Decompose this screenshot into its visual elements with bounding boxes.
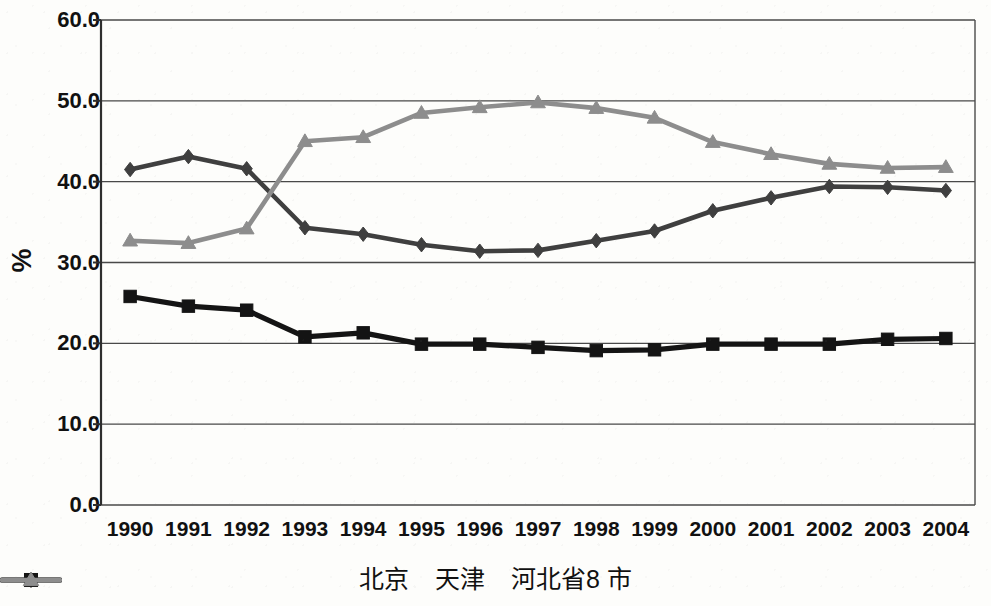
data-point-marker [765,191,776,205]
data-point-marker [881,333,893,345]
legend-item-label: 北京 [359,567,409,592]
data-point-marker [358,227,369,241]
data-point-marker [940,183,951,197]
legend-item-label: 河北省8 市 [511,567,632,592]
data-point-marker [415,338,427,350]
data-point-marker [124,290,136,302]
data-point-marker [183,149,194,163]
data-point-marker [940,332,952,344]
series-2 [124,290,952,357]
chart-legend: 北京天津河北省8 市 [0,567,991,592]
data-point-marker [590,344,602,356]
legend-marker-triangle-icon [0,567,62,593]
data-point-marker [474,338,486,350]
data-point-marker [648,344,660,356]
data-point-marker [240,304,252,316]
data-point-marker [532,243,543,257]
line-chart: % 60.050.040.030.020.010.00.0 1990199119… [0,0,991,606]
legend-item[interactable]: 北京 [359,567,409,592]
data-point-marker [707,338,719,350]
data-point-marker [125,162,136,176]
data-point-marker [357,327,369,339]
data-point-marker [591,233,602,247]
data-point-marker [765,338,777,350]
data-point-marker [416,238,427,252]
legend-item[interactable]: 河北省8 市 [511,567,632,592]
data-point-marker [707,204,718,218]
data-point-marker [182,300,194,312]
data-point-marker [299,331,311,343]
series-line [130,157,946,252]
legend-item[interactable]: 天津 [435,567,485,592]
data-point-marker [823,338,835,350]
plot-area [0,0,991,606]
data-point-marker [532,341,544,353]
data-point-marker [649,224,660,238]
legend-item-label: 天津 [435,567,485,592]
data-point-marker [474,244,485,258]
